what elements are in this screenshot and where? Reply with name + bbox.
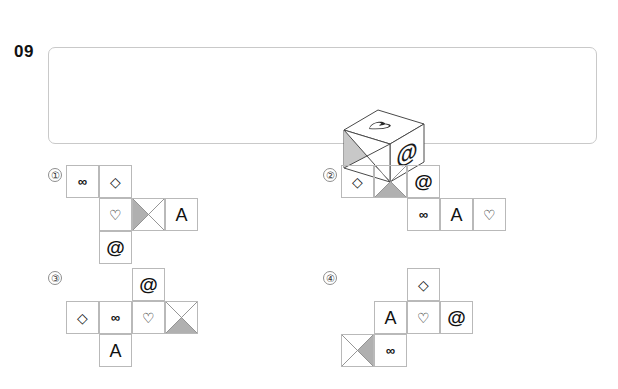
option-3-cell-at[interactable]: @ <box>132 268 165 301</box>
heart-glyph: ♡ <box>109 208 122 222</box>
option-1-label: ① <box>48 168 62 182</box>
at-glyph: @ <box>106 238 125 257</box>
option-4-cell-at[interactable]: @ <box>440 301 473 334</box>
option-3-cell-inf[interactable]: ∞ <box>99 301 132 334</box>
option-2-cell-diamond[interactable]: ◇ <box>341 165 374 198</box>
option-1-cell-diamond[interactable]: ◇ <box>99 165 132 198</box>
at-glyph: @ <box>447 308 466 327</box>
option-4-cell-diamond[interactable]: ◇ <box>407 268 440 301</box>
option-2-label: ② <box>323 168 337 182</box>
a-glyph: A <box>384 309 396 327</box>
a-glyph: A <box>175 206 187 224</box>
option-4-cell-heart[interactable]: ♡ <box>407 301 440 334</box>
diamond-glyph: ◇ <box>352 175 363 189</box>
option-2-cell-inf[interactable]: ∞ <box>407 198 440 231</box>
diamond-glyph: ◇ <box>418 278 429 292</box>
x-cross-icon <box>375 165 406 198</box>
heart-glyph: ♡ <box>483 208 496 222</box>
option-2-cell-a[interactable]: A <box>440 198 473 231</box>
shaded-triangle <box>375 182 406 198</box>
x-cross-icon <box>133 198 164 231</box>
option-3-cell-diamond[interactable]: ◇ <box>66 301 99 334</box>
option-4-cell-x-cross[interactable] <box>341 334 374 367</box>
inf-glyph: ∞ <box>111 311 120 324</box>
option-1-cell-heart[interactable]: ♡ <box>99 198 132 231</box>
option-3-cell-heart[interactable]: ♡ <box>132 301 165 334</box>
x-cross-icon <box>342 334 373 367</box>
option-4-cell-a[interactable]: A <box>374 301 407 334</box>
diamond-glyph: ◇ <box>110 175 121 189</box>
option-2-cell-at[interactable]: @ <box>407 165 440 198</box>
shaded-triangle <box>358 335 374 366</box>
option-1-cell-at[interactable]: @ <box>99 231 132 264</box>
inf-glyph: ∞ <box>386 344 395 357</box>
a-glyph: A <box>450 206 462 224</box>
prompt-panel: @ <box>48 47 597 144</box>
x-cross-icon <box>166 301 197 334</box>
inf-glyph: ∞ <box>419 208 428 221</box>
inf-glyph: ∞ <box>78 175 87 188</box>
worksheet-page: 09 @ <box>0 0 618 389</box>
option-3-label: ③ <box>48 271 62 285</box>
option-1-cell-inf[interactable]: ∞ <box>66 165 99 198</box>
question-number: 09 <box>14 42 34 62</box>
option-2-cell-x-cross[interactable] <box>374 165 407 198</box>
a-glyph: A <box>109 342 121 360</box>
option-2-cell-heart[interactable]: ♡ <box>473 198 506 231</box>
at-glyph: @ <box>139 275 158 294</box>
option-4-cell-inf[interactable]: ∞ <box>374 334 407 367</box>
option-1-cell-a[interactable]: A <box>165 198 198 231</box>
diamond-glyph: ◇ <box>77 311 88 325</box>
shaded-triangle <box>166 318 197 334</box>
option-3-cell-a[interactable]: A <box>99 334 132 367</box>
option-1-cell-x-cross[interactable] <box>132 198 165 231</box>
shaded-triangle <box>133 199 149 230</box>
option-3-cell-x-cross[interactable] <box>165 301 198 334</box>
option-4-label: ④ <box>323 271 337 285</box>
at-glyph: @ <box>414 172 433 191</box>
heart-glyph: ♡ <box>417 311 430 325</box>
heart-glyph: ♡ <box>142 311 155 325</box>
